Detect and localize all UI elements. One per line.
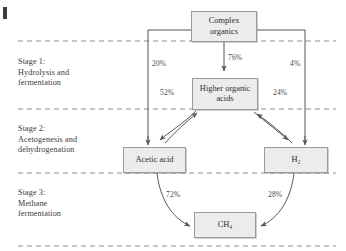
- flow-label-complex-to-acetic: 20%: [152, 59, 166, 68]
- flow-label-higher-acids-to-acetic: 52%: [160, 88, 174, 97]
- node-complex-organics[interactable]: Complex organics: [191, 11, 257, 42]
- arrow-acetic-to-methane: [157, 173, 190, 226]
- flow-label-complex-to-hydrogen: 4%: [290, 59, 300, 68]
- node-hydrogen-label: H₂: [292, 155, 301, 166]
- diagram-canvas: Complex organics Higher organic acids Ac…: [0, 0, 346, 251]
- node-methane-label: CH₄: [218, 220, 233, 231]
- arrow-acetic-to-higher-acids: [165, 113, 197, 143]
- node-acetic-acid[interactable]: Acetic acid: [123, 147, 186, 173]
- arrow-hydrogen-to-methane: [261, 173, 294, 226]
- node-acetic-acid-label: Acetic acid: [136, 155, 174, 166]
- flow-label-higher-acids-to-hydrogen: 24%: [273, 88, 287, 97]
- arrow-higher-acids-to-hydrogen: [254, 112, 288, 140]
- stage-label-2: Stage 2: Acetogenesis and dehydrogenatio…: [18, 124, 113, 156]
- flow-label-hydrogen-to-methane: 28%: [268, 190, 282, 199]
- stage-label-3: Stage 3: Methane fermentation: [18, 188, 108, 220]
- stage-label-1: Stage 1: Hydrolysis and fermentation: [18, 57, 108, 89]
- node-hydrogen[interactable]: H₂: [264, 147, 328, 173]
- node-complex-organics-label: Complex organics: [209, 16, 240, 37]
- flow-label-acetic-to-methane: 72%: [166, 190, 180, 199]
- arrow-complex-to-hydrogen: [257, 30, 305, 140]
- arrow-higher-acids-to-acetic: [160, 111, 196, 140]
- node-methane[interactable]: CH₄: [194, 212, 256, 238]
- node-higher-organic-acids-label: Higher organic acids: [200, 84, 250, 105]
- flow-label-complex-to-higher-acids: 76%: [228, 53, 242, 62]
- node-higher-organic-acids[interactable]: Higher organic acids: [192, 78, 258, 110]
